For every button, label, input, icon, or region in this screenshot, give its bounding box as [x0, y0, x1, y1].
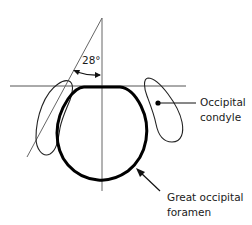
right-condyle — [145, 78, 183, 142]
foramen-pointer-line — [140, 172, 160, 191]
condyle-label-line2: condyle — [200, 110, 241, 125]
angle-arrow-right-icon — [95, 72, 101, 78]
foramen-label-line1: Great occipital — [167, 190, 244, 205]
angle-arrow-left-icon — [73, 70, 80, 75]
left-condyle — [36, 81, 73, 155]
condyle-label-line1: Occipital — [200, 95, 246, 110]
angle-label: 28° — [82, 54, 101, 66]
foramen-label-line2: foramen — [167, 205, 211, 220]
